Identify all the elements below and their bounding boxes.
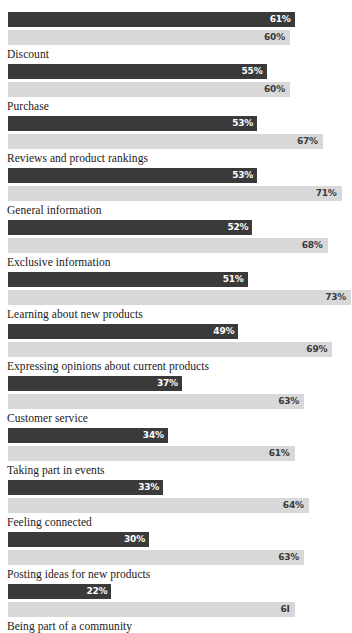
bar-dark: 52% (8, 220, 252, 235)
bar-value-dark: 53% (232, 116, 253, 131)
bar-light: 64% (8, 498, 309, 513)
bar-value-dark: 22% (86, 584, 107, 599)
bar-value-dark: 37% (157, 376, 178, 391)
bar-row-dark: 55% (0, 64, 352, 79)
bar-light: 71% (8, 186, 342, 201)
bar-value-dark: 34% (143, 428, 164, 443)
category-label: Learning about new products (7, 307, 352, 321)
bar-dark: 37% (8, 376, 182, 391)
bar-row-light: 69% (0, 342, 352, 357)
bar-value-light: 73% (325, 290, 346, 305)
bar-row-light: 64% (0, 498, 352, 513)
bar-value-light: 63% (278, 394, 299, 409)
bar-row-light: 68% (0, 238, 352, 253)
bar-value-dark: 49% (213, 324, 234, 339)
bar-value-dark: 33% (138, 480, 159, 495)
bar-value-light: 63% (278, 550, 299, 565)
bar-row-light: 63% (0, 394, 352, 409)
category-label: Exclusive information (7, 255, 352, 269)
bar-dark: 22% (8, 584, 111, 599)
bar-row-dark: 34% (0, 428, 352, 443)
category-label: General information (7, 203, 352, 217)
bar-row-dark: 30% (0, 532, 352, 547)
bar-group: 53%67%Reviews and product rankings (0, 116, 352, 165)
bar-group: 37%63%Customer service (0, 376, 352, 425)
bar-row-dark: 51% (0, 272, 352, 287)
bar-dark: 61% (8, 12, 295, 27)
bar-value-dark: 53% (232, 168, 253, 183)
bar-row-dark: 37% (0, 376, 352, 391)
bar-group: 51%73%Learning about new products (0, 272, 352, 321)
bar-light: 6I (8, 602, 295, 617)
bar-group: 55%60%Purchase (0, 64, 352, 113)
bar-value-light: 6I (280, 602, 289, 617)
bar-light: 73% (8, 290, 351, 305)
category-label: Customer service (7, 411, 352, 425)
bar-group: 22%6IBeing part of a community (0, 584, 352, 633)
bar-group: 61%60%Discount (0, 12, 352, 61)
bar-light: 60% (8, 82, 290, 97)
bar-dark: 55% (8, 64, 267, 79)
bar-value-dark: 51% (223, 272, 244, 287)
category-label: Purchase (7, 99, 352, 113)
bar-light: 61% (8, 446, 295, 461)
bar-dark: 33% (8, 480, 163, 495)
bar-row-light: 60% (0, 30, 352, 45)
bar-dark: 53% (8, 116, 257, 131)
bar-group: 30%63%Posting ideas for new products (0, 532, 352, 581)
bar-dark: 51% (8, 272, 248, 287)
bar-value-light: 69% (306, 342, 327, 357)
bar-value-light: 64% (283, 498, 304, 513)
bar-value-dark: 61% (270, 12, 291, 27)
bar-row-dark: 49% (0, 324, 352, 339)
bar-row-dark: 53% (0, 168, 352, 183)
bar-value-light: 61% (269, 446, 290, 461)
bar-group: 53%71%General information (0, 168, 352, 217)
bar-group: 33%64%Feeling connected (0, 480, 352, 529)
bar-value-light: 68% (302, 238, 323, 253)
bar-group: 52%68%Exclusive information (0, 220, 352, 269)
category-label: Posting ideas for new products (7, 567, 352, 581)
bar-light: 69% (8, 342, 332, 357)
bar-value-light: 60% (264, 30, 285, 45)
category-label: Expressing opinions about current produc… (7, 359, 352, 373)
bar-row-dark: 22% (0, 584, 352, 599)
bar-row-light: 60% (0, 82, 352, 97)
bar-light: 60% (8, 30, 290, 45)
bar-dark: 34% (8, 428, 168, 443)
bar-light: 63% (8, 394, 304, 409)
bar-light: 68% (8, 238, 328, 253)
bar-value-dark: 55% (242, 64, 263, 79)
bar-row-light: 73% (0, 290, 352, 305)
bar-value-dark: 52% (227, 220, 248, 235)
bar-dark: 30% (8, 532, 149, 547)
bar-value-light: 60% (264, 82, 285, 97)
bar-group: 34%61%Taking part in events (0, 428, 352, 477)
bar-group: 49%69%Expressing opinions about current … (0, 324, 352, 373)
bar-row-light: 71% (0, 186, 352, 201)
bar-dark: 53% (8, 168, 257, 183)
bar-light: 67% (8, 134, 323, 149)
bar-dark: 49% (8, 324, 238, 339)
bar-row-light: 6I (0, 602, 352, 617)
bar-row-light: 67% (0, 134, 352, 149)
bar-row-dark: 61% (0, 12, 352, 27)
bar-value-light: 67% (297, 134, 318, 149)
bar-value-dark: 30% (124, 532, 145, 547)
bar-row-dark: 52% (0, 220, 352, 235)
bar-row-light: 63% (0, 550, 352, 565)
category-label: Discount (7, 47, 352, 61)
category-label: Taking part in events (7, 463, 352, 477)
bar-row-dark: 53% (0, 116, 352, 131)
bar-row-dark: 33% (0, 480, 352, 495)
category-label: Reviews and product rankings (7, 151, 352, 165)
category-label: Being part of a community (7, 619, 352, 633)
bar-row-light: 61% (0, 446, 352, 461)
bar-value-light: 71% (316, 186, 337, 201)
bar-light: 63% (8, 550, 304, 565)
category-label: Feeling connected (7, 515, 352, 529)
